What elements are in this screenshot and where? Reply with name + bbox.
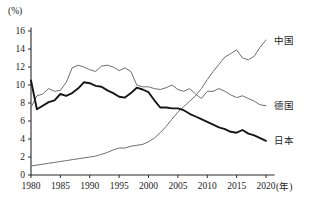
- y-tick-label: 6: [20, 116, 25, 126]
- series-line-japan: [31, 81, 266, 141]
- x-tick-label: 1980: [22, 181, 41, 191]
- line-chart: 0246810121416 19801985199019952000200520…: [0, 0, 310, 203]
- series-line-china: [31, 40, 266, 166]
- x-axis-unit-label: (年): [276, 181, 292, 193]
- y-axis-unit-label: (%): [8, 6, 22, 17]
- series-label-japan: 日本: [274, 135, 294, 146]
- y-tick-label: 4: [20, 134, 25, 144]
- chart-canvas: 0246810121416 19801985199019952000200520…: [0, 0, 310, 203]
- series-line-germany: [31, 65, 266, 107]
- x-axis-ticks: 198019851990199520002005201020152020: [22, 175, 276, 191]
- y-tick-label: 10: [16, 80, 26, 90]
- series-label-germany: 德国: [274, 100, 294, 111]
- y-tick-label: 2: [20, 152, 25, 162]
- x-tick-label: 1995: [110, 181, 129, 191]
- y-tick-label: 16: [16, 26, 26, 36]
- x-tick-label: 2020: [257, 181, 276, 191]
- x-tick-label: 2010: [198, 181, 217, 191]
- x-tick-label: 1985: [51, 181, 70, 191]
- y-tick-label: 8: [20, 98, 25, 108]
- axis-lines: [31, 28, 274, 175]
- x-tick-label: 2015: [227, 181, 246, 191]
- axes-group: 0246810121416 19801985199019952000200520…: [16, 26, 276, 190]
- y-tick-label: 14: [16, 44, 26, 54]
- y-axis-ticks: 0246810121416: [16, 26, 32, 180]
- x-tick-label: 2005: [168, 181, 187, 191]
- x-tick-label: 1990: [80, 181, 99, 191]
- y-tick-label: 12: [16, 62, 26, 72]
- plot-lines: [31, 40, 266, 166]
- series-label-china: 中国: [274, 35, 294, 46]
- y-tick-label: 0: [20, 170, 25, 180]
- series-labels: 中国 德国 日本: [274, 35, 294, 147]
- x-tick-label: 2000: [139, 181, 158, 191]
